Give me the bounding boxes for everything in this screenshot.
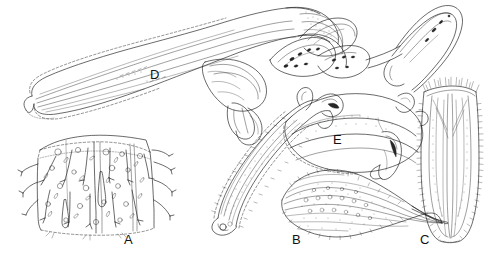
top-right-appendage-drawing bbox=[384, 5, 463, 92]
panel-e-drawing bbox=[212, 94, 343, 235]
panel-label-c: C bbox=[420, 233, 430, 246]
panel-b-drawing bbox=[282, 168, 448, 239]
panel-label-e: E bbox=[333, 133, 342, 146]
plate-artwork bbox=[0, 0, 503, 256]
panel-label-a: A bbox=[124, 233, 133, 246]
segmented-body-drawing bbox=[284, 88, 429, 174]
panel-label-d: D bbox=[150, 68, 160, 81]
panel-label-b: B bbox=[292, 233, 301, 246]
illustration-plate: D E A B C bbox=[0, 0, 503, 256]
panel-c-drawing bbox=[417, 77, 483, 243]
panel-d-drawing bbox=[24, 7, 402, 145]
panel-a-drawing bbox=[18, 135, 176, 240]
